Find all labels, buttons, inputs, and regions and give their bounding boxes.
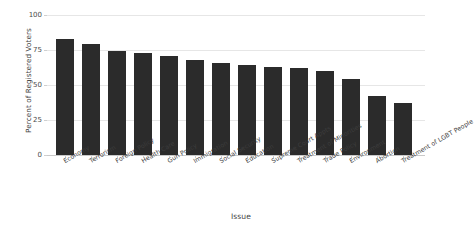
bar	[108, 51, 126, 155]
y-tick-label: 50	[33, 81, 42, 89]
bar	[264, 67, 282, 155]
y-tick-label: 25	[33, 116, 42, 124]
bar	[186, 60, 204, 155]
y-tick-label: 75	[33, 46, 42, 54]
y-tick-label: 100	[29, 11, 42, 19]
x-axis-title: Issue	[56, 212, 426, 221]
y-tick-label: 0	[38, 151, 42, 159]
bar	[82, 44, 100, 155]
x-axis-tick-labels: EconomyTerrorismForeign PolicyHealth Car…	[47, 156, 425, 212]
plot-area: 0255075100	[47, 15, 425, 155]
bar	[56, 39, 74, 155]
bar-series	[47, 15, 425, 155]
